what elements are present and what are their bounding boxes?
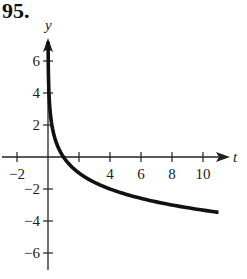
x-tick-label: 10 (196, 166, 211, 182)
x-tick-label: 6 (137, 166, 145, 182)
y-tick-label: 2 (33, 117, 41, 133)
x-axis-label: t (233, 149, 238, 165)
y-tick-label: 4 (33, 85, 41, 101)
x-tick-label: −2 (9, 166, 25, 182)
y-tick-label: −4 (24, 213, 40, 229)
y-tick-label: 6 (33, 53, 41, 69)
x-tick-label: 8 (168, 166, 176, 182)
x-tick-label: 4 (106, 166, 114, 182)
function-curve (48, 42, 218, 213)
chart: −246810−6−4−2246 t y (0, 0, 247, 279)
y-tick-label: −2 (24, 181, 40, 197)
x-axis (2, 152, 230, 162)
y-tick-label: −6 (24, 245, 40, 261)
y-axis-label: y (43, 17, 52, 33)
